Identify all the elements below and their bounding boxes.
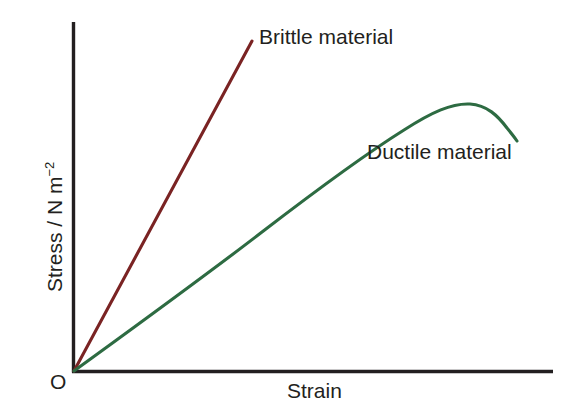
- origin-label: O: [50, 371, 66, 392]
- chart-plot-area: [0, 0, 582, 416]
- brittle-material-line: [74, 41, 252, 371]
- x-axis-label: Strain: [287, 380, 342, 401]
- y-axis-label-exponent: −2: [42, 162, 57, 177]
- ductile-material-label: Ductile material: [367, 141, 512, 162]
- brittle-material-label: Brittle material: [259, 26, 393, 47]
- y-axis-label-text: Stress / N m: [43, 176, 66, 292]
- y-axis-label: Stress / N m−2: [44, 162, 65, 292]
- stress-strain-chart: Brittle material Ductile material Strain…: [0, 0, 582, 416]
